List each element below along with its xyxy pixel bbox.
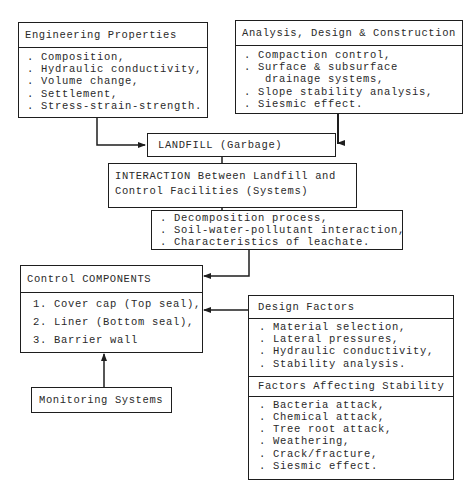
landfill-title: LANDFILL (Garbage) bbox=[158, 139, 282, 151]
list-item: 1. Cover cap (Top seal), bbox=[33, 295, 202, 313]
monitoring-systems-box: Monitoring Systems bbox=[31, 387, 172, 413]
list-item: . Hydraulic conductivity, bbox=[27, 63, 207, 75]
list-item: . Material selection, bbox=[259, 321, 453, 333]
analysis-design-box: Analysis, Design & Construction . Compac… bbox=[235, 20, 463, 114]
landfill-box: LANDFILL (Garbage) bbox=[147, 133, 336, 157]
list-item: . Slope stability analysis, bbox=[244, 86, 462, 98]
list-item: . Settlement, bbox=[27, 88, 207, 100]
control-components-list: 1. Cover cap (Top seal), 2. Liner (Botto… bbox=[21, 293, 202, 349]
list-item: . Siesmic effect. bbox=[259, 460, 453, 472]
processes-box: . Decomposition process, . Soil-water-po… bbox=[151, 210, 403, 250]
monitoring-systems-title: Monitoring Systems bbox=[39, 394, 163, 406]
engineering-properties-list: . Composition, . Hydraulic conductivity,… bbox=[19, 48, 207, 112]
list-item: . Characteristics of leachate. bbox=[160, 236, 402, 248]
list-item: . Surface & subsurface bbox=[244, 61, 462, 73]
list-item: . Bacteria attack, bbox=[259, 399, 453, 411]
list-item: . Weathering, bbox=[259, 435, 453, 447]
analysis-design-title: Analysis, Design & Construction bbox=[236, 21, 462, 46]
control-components-title: Control COMPONENTS bbox=[21, 266, 202, 293]
engineering-properties-title: Engineering Properties bbox=[19, 23, 207, 48]
list-item: . Soil-water-pollutant interaction, bbox=[160, 224, 402, 236]
list-item: . Siesmic effect. bbox=[244, 98, 462, 110]
list-item: 2. Liner (Bottom seal), bbox=[33, 313, 202, 331]
list-item: 3. Barrier wall bbox=[33, 331, 202, 349]
interaction-box: INTERACTION Between Landfill and Control… bbox=[108, 163, 357, 208]
control-components-box: Control COMPONENTS 1. Cover cap (Top sea… bbox=[20, 265, 203, 353]
design-factors-box: Design Factors . Material selection, . L… bbox=[248, 295, 454, 480]
list-item: . Crack/fracture, bbox=[259, 448, 453, 460]
list-item: drainage systems, bbox=[244, 73, 462, 85]
list-item: . Decomposition process, bbox=[160, 212, 402, 224]
processes-list: . Decomposition process, . Soil-water-po… bbox=[152, 211, 402, 249]
list-item: . Composition, bbox=[27, 51, 207, 63]
interaction-line-1: INTERACTION Between Landfill and bbox=[115, 169, 350, 184]
list-item: . Lateral pressures, bbox=[259, 333, 453, 345]
list-item: . Compaction control, bbox=[244, 49, 462, 61]
interaction-line-2: Control Facilities (Systems) bbox=[115, 184, 350, 199]
list-item: . Stability analysis. bbox=[259, 358, 453, 370]
list-item: . Tree root attack, bbox=[259, 423, 453, 435]
design-factors-list: . Material selection, . Lateral pressure… bbox=[249, 319, 453, 370]
engineering-properties-box: Engineering Properties . Composition, . … bbox=[18, 22, 208, 118]
list-item: . Volume change, bbox=[27, 75, 207, 87]
list-item: . Chemical attack, bbox=[259, 411, 453, 423]
design-factors-title: Design Factors bbox=[249, 296, 453, 319]
analysis-design-list: . Compaction control, . Surface & subsur… bbox=[236, 46, 462, 110]
stability-factors-title: Factors Affecting Stability bbox=[249, 376, 453, 397]
stability-factors-list: . Bacteria attack, . Chemical attack, . … bbox=[249, 397, 453, 472]
list-item: . Hydraulic conductivity, bbox=[259, 345, 453, 357]
list-item: . Stress-strain-strength. bbox=[27, 100, 207, 112]
